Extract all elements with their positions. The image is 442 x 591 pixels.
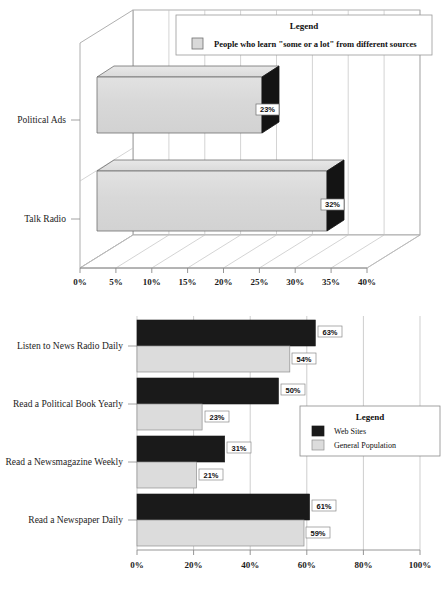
bottom-chart-category-2: Read a Newsmagazine Weekly [6,457,124,467]
top-chart-xtick-0: 0% [73,277,87,287]
bottom-chart-xtick-80: 80% [354,560,372,570]
bottom-chart-category-3: Read a Newspaper Daily [28,515,123,525]
bottom-bar-websites-1[interactable] [137,378,279,404]
bottom-chart-xtick-20: 20% [185,560,203,570]
bottom-chart-xtick-0: 0% [130,560,144,570]
bottom-chart-xtick-40: 40% [241,560,259,570]
top-chart-legend-entry-label: People who learn "some or a lot" from di… [214,39,417,49]
bottom-chart-value-axis: 0% 20% 40% 60% 80% 100% [130,550,431,570]
bottom-chart-xtick-60: 60% [298,560,316,570]
bottom-label-websites-3: 61% [312,500,336,511]
bottom-chart-legend-swatch-websites-icon [312,426,324,436]
top-chart-category-axis: Political Ads Talk Radio [17,115,80,224]
bottom-label-general-1: 23% [205,411,229,422]
bottom-label-general-0: 54% [292,353,316,364]
top-3d-bar-chart: 23% 32% Political Ads Talk Radio [0,0,442,300]
bottom-chart-legend-title: Legend [356,412,385,422]
bottom-label-websites-1-text: 50% [285,386,300,395]
bottom-chart-legend-label-websites: Web Sites [334,427,366,436]
top-chart-value-axis: 0% 5% 10% 15% 20% 25% 30% 35% 40% [73,268,376,287]
top-bar-talk-radio-value: 32% [321,199,344,210]
bottom-chart-category-0: Listen to News Radio Daily [17,341,123,351]
bottom-group-newsmagazine: 31% 21% Read a Newsmagazine Weekly [6,436,252,488]
bottom-label-general-0-text: 54% [296,355,311,364]
top-chart-xtick-30: 30% [286,277,304,287]
top-chart-legend-swatch-icon [192,38,203,49]
top-chart-xtick-25: 25% [250,277,268,287]
top-chart-category-political-ads: Political Ads [17,115,66,125]
bottom-label-websites-2: 31% [227,442,251,453]
bottom-label-general-2: 21% [199,469,223,480]
bottom-label-websites-3-text: 61% [316,502,331,511]
bottom-bar-websites-2[interactable] [137,436,225,462]
bottom-bar-general-2[interactable] [137,462,196,488]
top-chart-xtick-35: 35% [322,277,340,287]
top-chart-xtick-10: 10% [143,277,161,287]
bottom-label-websites-0-text: 63% [322,328,337,337]
bottom-bar-general-1[interactable] [137,404,202,430]
bottom-chart-legend[interactable]: Legend Web Sites General Population [300,406,440,456]
bottom-label-general-3-text: 59% [310,529,325,538]
top-chart-category-talk-radio: Talk Radio [24,214,66,224]
bottom-group-listen-news-radio: 63% 54% Listen to News Radio Daily [17,320,342,372]
figure-page: 23% 32% Political Ads Talk Radio [0,0,442,591]
top-bar-political-ads-value-text: 23% [260,105,275,114]
bottom-bar-general-0[interactable] [137,346,290,372]
top-bar-political-ads[interactable]: 23% [97,66,279,133]
top-chart-xtick-5: 5% [109,277,123,287]
bottom-bar-websites-0[interactable] [137,320,315,346]
top-bar-political-ads-value: 23% [256,104,279,115]
top-bar-talk-radio-value-text: 32% [325,200,340,209]
bottom-label-general-2-text: 21% [203,471,218,480]
bottom-label-websites-1: 50% [281,384,305,395]
bottom-label-general-1-text: 23% [209,413,224,422]
bottom-bar-websites-3[interactable] [137,494,310,520]
top-chart-xtick-20: 20% [215,277,233,287]
top-chart-xtick-40: 40% [358,277,376,287]
bottom-chart-legend-label-general: General Population [334,441,396,450]
bottom-chart-xtick-100: 100% [409,560,432,570]
top-bar-talk-radio[interactable]: 32% [97,160,344,231]
top-chart-legend-title: Legend [290,21,319,31]
bottom-grouped-bar-chart: 63% 54% Listen to News Radio Daily 50% 2… [0,300,442,591]
bottom-bar-general-3[interactable] [137,520,304,546]
bottom-chart-legend-swatch-general-icon [312,440,324,450]
top-chart-xtick-15: 15% [179,277,197,287]
top-chart-legend[interactable]: Legend People who learn "some or a lot" … [176,15,432,55]
bottom-label-general-3: 59% [306,527,330,538]
bottom-label-websites-0: 63% [318,326,342,337]
bottom-chart-category-1: Read a Political Book Yearly [13,399,123,409]
bottom-group-newspaper: 61% 59% Read a Newspaper Daily [28,494,336,546]
bottom-label-websites-2-text: 31% [231,444,246,453]
